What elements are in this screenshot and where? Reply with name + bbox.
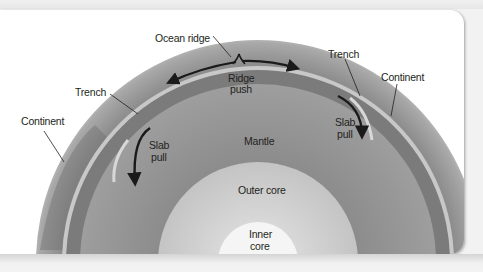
continent-left-leader [44, 131, 64, 162]
label-mantle: Mantle [244, 136, 274, 147]
top-frame-band [0, 0, 483, 9]
label-inner-core-line1: Inner [249, 229, 272, 240]
label-trench-left: Trench [75, 87, 106, 98]
label-slab-pull-left-line2: pull [151, 152, 167, 163]
earth-cross-section [0, 10, 464, 254]
diagram-panel: Ocean ridge Ridge push Trench Trench Con… [0, 10, 464, 254]
label-ocean-ridge: Ocean ridge [155, 33, 210, 44]
label-slab-pull-right-line2: pull [337, 129, 353, 140]
label-slab-pull-left-line1: Slab [149, 140, 169, 151]
label-outer-core: Outer core [238, 185, 286, 196]
label-inner-core-line2: core [250, 241, 270, 252]
label-continent-left: Continent [21, 116, 64, 127]
label-trench-right: Trench [328, 49, 359, 60]
label-slab-pull-right-line1: Slab [335, 117, 355, 128]
label-ridge-push-line2: push [230, 84, 252, 95]
bottom-frame-band [0, 254, 483, 272]
label-continent-right: Continent [381, 72, 424, 83]
